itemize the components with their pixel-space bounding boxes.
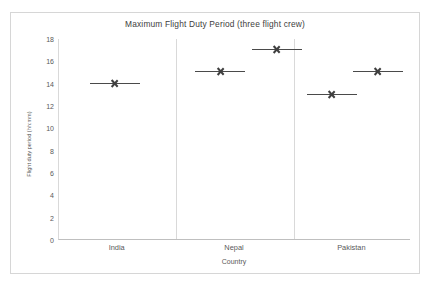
x-axis-title: Country (58, 258, 410, 265)
x-marker-icon (216, 67, 225, 76)
chart-frame: Maximum Flight Duty Period (three flight… (10, 12, 420, 274)
x-marker-icon (373, 67, 382, 76)
data-point-marker (353, 67, 403, 76)
y-axis-tick-label: 14 (38, 80, 54, 87)
x-axis-category-label-india: India (109, 243, 125, 252)
x-axis-category-labels: IndiaNepalPakistan (58, 243, 410, 257)
y-axis-tick-label: 10 (38, 125, 54, 132)
y-axis-tick-label: 0 (38, 237, 54, 244)
category-panel-divider (176, 39, 177, 239)
x-axis-category-label-nepal: Nepal (224, 243, 243, 252)
y-axis-tick-label: 12 (38, 103, 54, 110)
category-panel-divider (294, 39, 295, 239)
marker-line (90, 83, 140, 84)
chart-title: Maximum Flight Duty Period (three flight… (11, 19, 419, 29)
data-point-marker (90, 79, 140, 88)
x-marker-icon (110, 79, 119, 88)
marker-line (195, 71, 245, 72)
plot-area (58, 39, 410, 240)
x-marker-icon (272, 45, 281, 54)
y-axis-tick-labels: 024681012141618 (36, 39, 54, 240)
y-axis-tick-label: 16 (38, 58, 54, 65)
y-axis-tick-label: 8 (38, 147, 54, 154)
y-axis-tick-label: 6 (38, 170, 54, 177)
y-axis-title: Flight duty period (hh:mm) (26, 84, 32, 204)
data-point-marker (195, 67, 245, 76)
x-axis-category-label-pakistan: Pakistan (337, 243, 365, 252)
y-axis-tick-label: 4 (38, 192, 54, 199)
x-marker-icon (327, 90, 336, 99)
marker-line (353, 71, 403, 72)
y-axis-tick-label: 18 (38, 36, 54, 43)
marker-line (307, 94, 357, 95)
y-axis-tick-label: 2 (38, 214, 54, 221)
data-point-marker (307, 90, 357, 99)
